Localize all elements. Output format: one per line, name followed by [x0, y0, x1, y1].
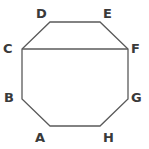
vertex-label-a: A: [35, 131, 45, 144]
vertex-label-g: G: [131, 91, 142, 104]
vertex-label-h: H: [103, 131, 114, 144]
geometry-figure: A B C D E F G H: [0, 0, 149, 149]
vertex-label-f: F: [131, 42, 140, 55]
vertex-label-d: D: [36, 7, 47, 20]
vertex-label-b: B: [4, 91, 14, 104]
octagon-outline: [22, 22, 128, 126]
octagon-diagram: [0, 0, 149, 149]
vertex-label-c: C: [3, 42, 13, 55]
vertex-label-e: E: [103, 7, 112, 20]
